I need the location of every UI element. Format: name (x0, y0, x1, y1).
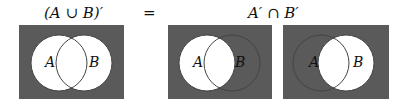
venn-b-complement (283, 25, 389, 99)
set-b-label-2: B (235, 54, 245, 70)
set-a-label-1: A (45, 54, 55, 70)
set-b-label-3: B (353, 54, 363, 70)
venn-union-complement (19, 25, 124, 99)
set-a-label-2: A (193, 54, 203, 70)
set-b-label-1: B (89, 54, 99, 70)
venn-diagrams (0, 0, 407, 108)
venn-a-complement (168, 25, 272, 99)
set-a-label-3: A (309, 54, 319, 70)
